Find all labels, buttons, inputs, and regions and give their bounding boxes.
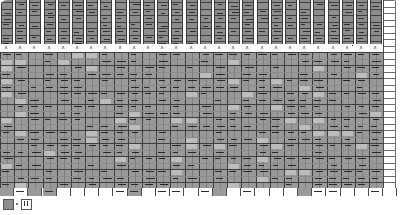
column-header-cells[interactable]	[328, 0, 340, 44]
marker-row-cell[interactable]: ʌ	[171, 44, 181, 52]
marker-row-cell[interactable]: ʌ	[15, 44, 25, 52]
column-header-cells[interactable]	[242, 0, 254, 44]
cell-border	[16, 35, 26, 36]
footer-cell[interactable]	[71, 188, 85, 196]
footer-cell[interactable]	[341, 188, 355, 196]
marker-row-cell[interactable]: ʌ	[356, 44, 366, 52]
footer-cell[interactable]	[312, 188, 326, 196]
column-header-cells[interactable]	[143, 0, 155, 44]
column-header-cells[interactable]	[86, 0, 98, 44]
marker-row-cell[interactable]: ʌ	[342, 44, 352, 52]
cell-text	[103, 145, 108, 146]
column-header-cells[interactable]	[186, 0, 198, 44]
marker-row-cell[interactable]: ʌ	[313, 44, 323, 52]
blank-column[interactable]	[383, 0, 396, 196]
column-header-cells[interactable]	[313, 0, 325, 44]
cell-text	[302, 158, 310, 159]
spreadsheet-grid[interactable]: ʌʌʌʌʌʌʌʌʌʌʌʌʌʌʌʌʌʌʌʌʌʌʌʌʌʌʌ	[0, 0, 400, 196]
footer-cell[interactable]	[369, 188, 383, 196]
grid-footer-row[interactable]	[0, 188, 400, 196]
pause-button[interactable]	[21, 199, 32, 210]
row-border	[0, 169, 383, 170]
marker-row-cell[interactable]: ʌ	[100, 44, 110, 52]
footer-cell[interactable]	[383, 188, 397, 196]
footer-cell[interactable]	[142, 188, 156, 196]
marker-row-cell[interactable]: ʌ	[115, 44, 125, 52]
footer-cell[interactable]	[57, 188, 71, 196]
marker-row-cell[interactable]: ʌ	[328, 44, 338, 52]
column-header-cells[interactable]	[100, 0, 112, 44]
column-header-cells[interactable]	[72, 0, 84, 44]
footer-cell[interactable]	[284, 188, 298, 196]
marker-row-cell[interactable]: ʌ	[1, 44, 11, 52]
marker-row-cell[interactable]: ʌ	[86, 44, 96, 52]
column-header-cells[interactable]	[29, 0, 41, 44]
column-header-cells[interactable]	[15, 0, 27, 44]
column-header-cells[interactable]	[157, 0, 169, 44]
footer-cell[interactable]	[270, 188, 284, 196]
column-header-cells[interactable]	[214, 0, 226, 44]
blank-cell-border	[384, 72, 395, 73]
marker-row-cell[interactable]: ʌ	[157, 44, 167, 52]
footer-cell[interactable]	[114, 188, 128, 196]
marker-row-cell[interactable]: ʌ	[143, 44, 153, 52]
footer-cell[interactable]	[199, 188, 213, 196]
column-header-cells[interactable]	[44, 0, 56, 44]
cell-border	[343, 9, 353, 10]
marker-row-cell[interactable]: ʌ	[257, 44, 267, 52]
footer-cell[interactable]	[170, 188, 184, 196]
marker-row-cell[interactable]: ʌ	[44, 44, 54, 52]
marker-row-cell[interactable]: ʌ	[214, 44, 224, 52]
grid-data-band[interactable]	[0, 52, 383, 188]
column-header-cells[interactable]	[356, 0, 368, 44]
column-header-cells[interactable]	[200, 0, 212, 44]
column-header-cells[interactable]	[299, 0, 311, 44]
footer-cell[interactable]	[227, 188, 241, 196]
marker-row-cell[interactable]: ʌ	[299, 44, 309, 52]
marker-row-cell[interactable]: ʌ	[72, 44, 82, 52]
marker-row-cell[interactable]: ʌ	[271, 44, 281, 52]
column-header-cells[interactable]	[129, 0, 141, 44]
stop-button[interactable]	[3, 199, 14, 210]
column-header-cells[interactable]	[171, 0, 183, 44]
marker-row-cell[interactable]: ʌ	[186, 44, 196, 52]
footer-cell[interactable]	[298, 188, 312, 196]
column-header-cells[interactable]	[285, 0, 297, 44]
column-header-cells[interactable]	[1, 0, 13, 44]
column-header-cells[interactable]	[257, 0, 269, 44]
footer-cell[interactable]	[43, 188, 57, 196]
footer-cell[interactable]	[213, 188, 227, 196]
footer-cell[interactable]	[14, 188, 28, 196]
footer-cell[interactable]	[241, 188, 255, 196]
cell-border	[101, 28, 111, 29]
marker-row-cell[interactable]: ʌ	[228, 44, 238, 52]
marker-row-cell[interactable]: ʌ	[129, 44, 139, 52]
footer-cell[interactable]	[355, 188, 369, 196]
blank-cell-border	[384, 117, 395, 118]
column-header-cells[interactable]	[370, 0, 382, 44]
footer-cell[interactable]	[99, 188, 113, 196]
footer-cell[interactable]	[185, 188, 199, 196]
footer-cell[interactable]	[256, 188, 270, 196]
column-header-cells[interactable]	[271, 0, 283, 44]
marker-row-cell[interactable]: ʌ	[58, 44, 68, 52]
cell-text	[46, 31, 51, 32]
footer-cell[interactable]	[85, 188, 99, 196]
footer-cell[interactable]	[156, 188, 170, 196]
column-header-cells[interactable]	[228, 0, 240, 44]
marker-row-cell[interactable]: ʌ	[29, 44, 39, 52]
footer-cell[interactable]	[327, 188, 341, 196]
footer-cell[interactable]	[0, 188, 14, 196]
cell-highlight	[86, 138, 97, 143]
marker-row-cell[interactable]: ʌ	[242, 44, 252, 52]
marker-row-cell[interactable]: ʌ	[285, 44, 295, 52]
column-header-cells[interactable]	[115, 0, 127, 44]
column-header-cells[interactable]	[342, 0, 354, 44]
cell-text	[287, 145, 294, 146]
footer-cell[interactable]	[128, 188, 142, 196]
column-header-cells[interactable]	[58, 0, 70, 44]
footer-cell[interactable]	[28, 188, 42, 196]
marker-row-cell[interactable]: ʌ	[370, 44, 380, 52]
cell-border	[59, 35, 69, 36]
marker-row-cell[interactable]: ʌ	[200, 44, 210, 52]
